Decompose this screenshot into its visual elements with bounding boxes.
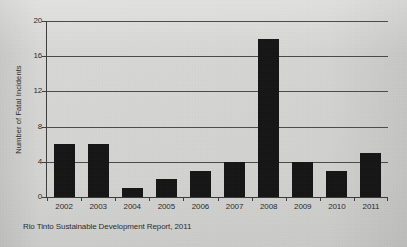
bar-2005[interactable] bbox=[156, 179, 177, 197]
source-caption: Rio Tinto Sustainable Development Report… bbox=[23, 222, 191, 231]
y-tick-mark-8 bbox=[42, 127, 47, 128]
x-tick-label-2003: 2003 bbox=[81, 202, 115, 211]
bar-2003[interactable] bbox=[88, 144, 109, 197]
x-tick-label-2005: 2005 bbox=[149, 202, 183, 211]
x-tick-mark-8 bbox=[320, 197, 321, 201]
bar-2007[interactable] bbox=[224, 162, 245, 197]
y-tick-label-20: 20 bbox=[20, 16, 42, 25]
y-tick-label-16: 16 bbox=[20, 51, 42, 60]
x-tick-mark-0 bbox=[47, 197, 48, 201]
x-tick-mark-4 bbox=[183, 197, 184, 201]
y-tick-label-8: 8 bbox=[20, 122, 42, 131]
x-tick-mark-6 bbox=[252, 197, 253, 201]
bar-2011[interactable] bbox=[360, 153, 381, 197]
y-tick-label-12: 12 bbox=[20, 86, 42, 95]
x-tick-label-2008: 2008 bbox=[252, 202, 286, 211]
x-tick-label-2002: 2002 bbox=[47, 202, 81, 211]
x-tick-label-2004: 2004 bbox=[115, 202, 149, 211]
bar-2010[interactable] bbox=[326, 171, 347, 197]
bar-2004[interactable] bbox=[122, 188, 143, 197]
y-tick-mark-12 bbox=[42, 91, 47, 92]
y-tick-mark-16 bbox=[42, 56, 47, 57]
x-axis: 2002200320042005200620072008200920102011 bbox=[47, 197, 388, 219]
y-tick-mark-0 bbox=[42, 197, 47, 198]
gridline-12 bbox=[47, 91, 388, 92]
gridline-20 bbox=[47, 21, 388, 22]
x-tick-mark-end bbox=[387, 197, 388, 201]
y-tick-label-4: 4 bbox=[20, 157, 42, 166]
x-tick-label-2009: 2009 bbox=[286, 202, 320, 211]
gridline-16 bbox=[47, 56, 388, 57]
x-tick-label-2006: 2006 bbox=[183, 202, 217, 211]
bar-2006[interactable] bbox=[190, 171, 211, 197]
bar-2009[interactable] bbox=[292, 162, 313, 197]
scanned-page-background: Number of Fatal Incidents 048121620 2002… bbox=[0, 0, 407, 247]
gridline-8 bbox=[47, 127, 388, 128]
x-tick-label-2011: 2011 bbox=[354, 202, 388, 211]
x-tick-mark-7 bbox=[286, 197, 287, 201]
bar-chart-figure: Number of Fatal Incidents 048121620 2002… bbox=[0, 0, 407, 247]
x-tick-label-2010: 2010 bbox=[320, 202, 354, 211]
y-tick-label-0: 0 bbox=[20, 192, 42, 201]
x-tick-mark-2 bbox=[115, 197, 116, 201]
bar-2002[interactable] bbox=[54, 144, 75, 197]
x-tick-mark-9 bbox=[354, 197, 355, 201]
plot-area bbox=[47, 21, 388, 197]
x-tick-label-2007: 2007 bbox=[218, 202, 252, 211]
y-axis-tick-labels: 048121620 bbox=[16, 0, 42, 247]
bar-2008[interactable] bbox=[258, 39, 279, 197]
x-tick-mark-1 bbox=[81, 197, 82, 201]
y-tick-mark-20 bbox=[42, 21, 47, 22]
x-tick-mark-5 bbox=[218, 197, 219, 201]
x-tick-mark-3 bbox=[149, 197, 150, 201]
y-tick-mark-4 bbox=[42, 162, 47, 163]
